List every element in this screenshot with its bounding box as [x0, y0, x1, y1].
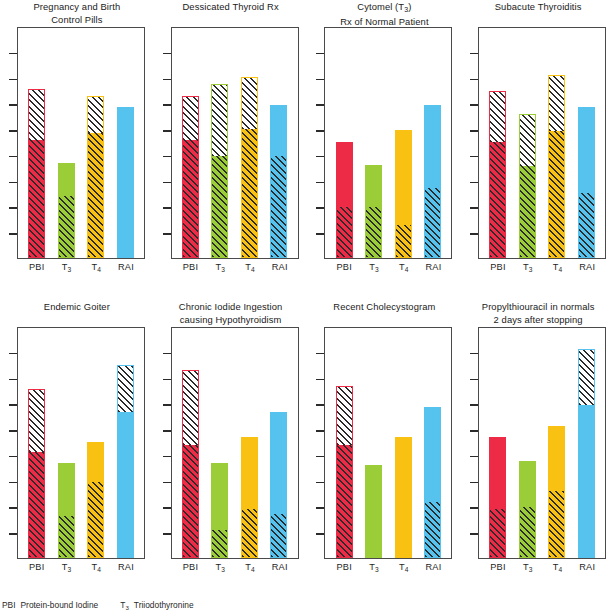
bar-pbi[interactable]: [182, 370, 199, 558]
y-axis-tick: [163, 130, 171, 131]
y-axis-tick: [163, 507, 171, 508]
bar-t4[interactable]: [87, 442, 104, 558]
bar-segment-solid: [118, 108, 133, 257]
bar-pbi[interactable]: [28, 89, 45, 258]
panel-title-line: Dessicated Thyroid Rx: [183, 1, 279, 14]
y-axis-tick: [316, 182, 324, 183]
x-axis-labels: PBIT3T4RAI: [316, 562, 452, 573]
y-axis-tick: [316, 156, 324, 157]
bar-segment-hatched-colored: [183, 445, 198, 557]
x-axis-label-pbi: PBI: [182, 562, 199, 573]
bar-segment-hatched-colored: [242, 509, 257, 557]
x-axis-label-t3: T3: [58, 562, 75, 573]
legend-abbr: T3: [120, 600, 129, 613]
bar-t3[interactable]: [519, 114, 536, 258]
y-axis-tick: [470, 104, 478, 105]
bar-t4[interactable]: [87, 96, 104, 258]
x-axis-label-rai: RAI: [579, 562, 596, 573]
bar-pbi[interactable]: [182, 96, 199, 258]
y-axis: [9, 27, 18, 259]
y-axis-tick: [163, 533, 171, 534]
y-axis-tick: [470, 533, 478, 534]
y-axis-tick: [316, 353, 324, 354]
x-axis-label-t3: T3: [58, 262, 75, 273]
y-axis: [163, 27, 172, 259]
panel-dessicated-thyroid-rx: Dessicated Thyroid RxPBIT3T4RAI: [154, 0, 308, 300]
y-axis: [470, 27, 479, 259]
bar-segment-hatched-open: [579, 350, 594, 405]
bar-group: [18, 328, 144, 558]
bar-rai[interactable]: [117, 107, 134, 258]
bar-t4[interactable]: [241, 437, 258, 558]
bar-pbi[interactable]: [489, 437, 506, 558]
bar-segment-hatched-colored: [490, 509, 505, 557]
y-axis: [9, 327, 18, 559]
bar-segment-hatched-colored: [183, 140, 198, 257]
x-axis-label-t4: T4: [549, 562, 566, 573]
y-axis-tick: [316, 207, 324, 208]
bar-segment-solid: [396, 438, 411, 557]
plot-area: [163, 27, 299, 259]
bar-segment-hatched-colored: [425, 502, 440, 557]
plot-area: [470, 27, 606, 259]
bar-t4[interactable]: [395, 130, 412, 258]
y-axis-tick: [470, 207, 478, 208]
bar-group: [479, 28, 605, 258]
y-axis-tick: [9, 482, 17, 483]
bar-pbi[interactable]: [336, 142, 353, 258]
bar-rai[interactable]: [424, 407, 441, 558]
panel-propylthiouracil-in-normals-2-days-after-stopping: Propylthiouracil in normals2 days after …: [461, 300, 615, 600]
bar-t3[interactable]: [58, 163, 75, 258]
bar-pbi[interactable]: [336, 386, 353, 558]
bar-group: [325, 328, 451, 558]
bar-t3[interactable]: [58, 463, 75, 558]
bar-segment-hatched-colored: [212, 530, 227, 557]
bar-rai[interactable]: [270, 105, 287, 258]
bar-t4[interactable]: [395, 437, 412, 558]
bar-t3[interactable]: [211, 463, 228, 558]
y-axis-tick: [9, 104, 17, 105]
bar-segment-hatched-colored: [490, 142, 505, 257]
x-axis-label-rai: RAI: [425, 562, 442, 573]
y-axis-tick: [163, 207, 171, 208]
x-axis-label-t4: T4: [242, 262, 259, 273]
bar-segment-hatched-colored: [271, 156, 286, 257]
bar-pbi[interactable]: [28, 389, 45, 558]
legend-abbr: PBI: [2, 600, 16, 613]
y-axis-tick: [9, 507, 17, 508]
y-axis-tick: [9, 130, 17, 131]
bar-segment-solid: [579, 108, 594, 193]
bar-rai[interactable]: [578, 107, 595, 258]
plot-area: [9, 27, 145, 259]
bar-rai[interactable]: [424, 105, 441, 258]
x-axis-labels: PBIT3T4RAI: [9, 262, 145, 273]
bar-pbi[interactable]: [489, 91, 506, 258]
bar-rai[interactable]: [270, 412, 287, 558]
y-axis-tick: [163, 233, 171, 234]
bar-rai[interactable]: [578, 349, 595, 558]
y-axis-tick: [9, 353, 17, 354]
bar-segment-hatched-colored: [337, 207, 352, 257]
bar-group: [172, 28, 298, 258]
bar-t3[interactable]: [519, 461, 536, 558]
bar-t4[interactable]: [548, 75, 565, 258]
bar-segment-hatched-open: [242, 78, 257, 128]
bar-segment-solid: [425, 106, 440, 188]
bar-segment-hatched-open: [212, 85, 227, 156]
bar-t4[interactable]: [241, 77, 258, 258]
x-axis-label-pbi: PBI: [490, 562, 507, 573]
bar-t4[interactable]: [548, 426, 565, 558]
bar-rai[interactable]: [117, 365, 134, 558]
bar-segment-hatched-open: [29, 90, 44, 140]
bar-segment-hatched-colored: [366, 207, 381, 257]
panel-title: Cytomel (T3)Rx of Normal Patient: [308, 0, 462, 27]
bar-t3[interactable]: [365, 165, 382, 258]
legend-text: Protein-bound Iodine: [21, 600, 99, 613]
bar-t3[interactable]: [211, 84, 228, 258]
y-axis-tick: [9, 79, 17, 80]
bar-t3[interactable]: [365, 465, 382, 558]
y-axis-tick: [163, 379, 171, 380]
panel-pregnancy-and-birth-control-pills: Pregnancy and BirthControl PillsPBIT3T4R…: [0, 0, 154, 300]
y-axis: [316, 327, 325, 559]
y-axis-tick: [316, 104, 324, 105]
